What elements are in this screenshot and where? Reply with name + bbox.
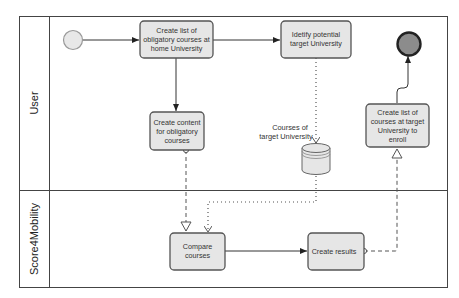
task-label: target University xyxy=(290,39,342,48)
task-label: Idetify potential xyxy=(292,30,341,39)
task-create-results[interactable]: Create results xyxy=(308,233,364,270)
task-label: home University xyxy=(151,44,203,53)
task-compare-courses[interactable]: Compare courses xyxy=(170,233,225,270)
start-event[interactable] xyxy=(64,31,83,50)
datastore-label: Courses of xyxy=(272,123,309,132)
bpmn-diagram: User Score4Mobility Create list of oblig… xyxy=(0,0,459,298)
task-label: Create content xyxy=(153,118,200,127)
end-event[interactable] xyxy=(398,33,421,56)
task-label: courses xyxy=(185,251,211,260)
task-label: obligatory courses at xyxy=(143,35,209,44)
task-label: courses at target xyxy=(371,117,425,126)
task-label: Create list of xyxy=(156,26,196,35)
task-create-content[interactable]: Create content for obligatory courses xyxy=(150,112,204,150)
pool xyxy=(20,17,448,288)
lane-user: User xyxy=(28,91,40,115)
task-label: courses xyxy=(164,136,190,145)
task-label: University to xyxy=(378,126,418,135)
datastore-label: target University xyxy=(259,132,313,141)
task-create-list-obligatory[interactable]: Create list of obligatory courses at hom… xyxy=(140,21,213,58)
task-identify-target-university[interactable]: Idetify potential target University xyxy=(281,21,351,58)
lane-label-score4mobility: Score4Mobility xyxy=(28,202,40,275)
task-label: Create results xyxy=(312,247,357,256)
task-label: Compare xyxy=(183,242,213,251)
task-label: for obligatory xyxy=(156,127,198,136)
datastore-courses-target-university[interactable] xyxy=(302,144,330,175)
lane-label-user: User xyxy=(28,91,40,115)
task-create-list-target[interactable]: Create list of courses at target Univers… xyxy=(366,104,429,147)
task-label: enroll xyxy=(389,135,407,144)
lane-score4mobility: Score4Mobility xyxy=(28,202,40,275)
task-label: Create list of xyxy=(377,108,417,117)
datastore-top xyxy=(302,144,330,153)
